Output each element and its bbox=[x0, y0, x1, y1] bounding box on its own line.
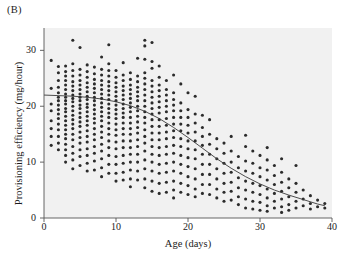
data-point bbox=[172, 189, 175, 192]
data-point bbox=[150, 125, 153, 128]
data-point bbox=[136, 80, 139, 83]
data-point bbox=[302, 189, 305, 192]
data-point bbox=[136, 132, 139, 135]
data-point bbox=[158, 182, 161, 185]
data-point bbox=[57, 128, 60, 131]
data-point bbox=[208, 183, 211, 186]
data-point bbox=[230, 181, 233, 184]
data-point bbox=[78, 99, 81, 102]
figure-panel-b: (B) Provisioning efficiency (mg/hour) Ag… bbox=[0, 0, 352, 263]
data-point bbox=[64, 133, 67, 136]
data-point bbox=[280, 157, 283, 160]
data-point bbox=[86, 154, 89, 157]
data-point bbox=[64, 115, 67, 118]
data-point bbox=[64, 110, 67, 113]
data-point bbox=[107, 62, 110, 65]
data-point bbox=[78, 92, 81, 95]
data-point bbox=[122, 121, 125, 124]
data-point bbox=[64, 99, 67, 102]
data-point bbox=[93, 159, 96, 162]
data-point bbox=[273, 206, 276, 209]
data-point bbox=[172, 129, 175, 132]
data-point bbox=[100, 101, 103, 104]
data-point bbox=[100, 88, 103, 91]
data-point bbox=[93, 91, 96, 94]
data-point bbox=[143, 128, 146, 131]
data-point bbox=[186, 165, 189, 168]
data-point bbox=[230, 135, 233, 138]
data-point bbox=[64, 128, 67, 131]
data-point bbox=[158, 106, 161, 109]
data-point bbox=[172, 116, 175, 119]
data-point bbox=[158, 111, 161, 114]
data-point bbox=[57, 148, 60, 151]
data-point bbox=[158, 95, 161, 98]
data-point bbox=[100, 136, 103, 139]
data-point bbox=[57, 91, 60, 94]
data-point bbox=[280, 181, 283, 184]
data-point bbox=[78, 104, 81, 107]
data-point bbox=[294, 164, 297, 167]
data-point bbox=[244, 145, 247, 148]
data-point bbox=[280, 205, 283, 208]
data-point bbox=[143, 135, 146, 138]
x-tick-label: 30 bbox=[247, 221, 273, 232]
data-point bbox=[64, 124, 67, 127]
data-point bbox=[208, 118, 211, 121]
data-point bbox=[172, 161, 175, 164]
data-point bbox=[179, 82, 182, 85]
data-point bbox=[143, 158, 146, 161]
data-point bbox=[78, 68, 81, 71]
data-point bbox=[114, 123, 117, 126]
data-point bbox=[273, 164, 276, 167]
data-point bbox=[258, 193, 261, 196]
data-point bbox=[129, 185, 132, 188]
data-point bbox=[107, 172, 110, 175]
data-point bbox=[266, 204, 269, 207]
data-point bbox=[129, 78, 132, 81]
data-point bbox=[201, 135, 204, 138]
data-point bbox=[136, 161, 139, 164]
data-point bbox=[150, 118, 153, 121]
data-point bbox=[287, 177, 290, 180]
data-point bbox=[50, 102, 53, 105]
data-point bbox=[165, 171, 168, 174]
data-point bbox=[114, 90, 117, 93]
data-point bbox=[50, 135, 53, 138]
data-point bbox=[165, 181, 168, 184]
data-point bbox=[143, 177, 146, 180]
data-point bbox=[93, 152, 96, 155]
data-point bbox=[64, 92, 67, 95]
data-point bbox=[158, 83, 161, 86]
data-point bbox=[222, 142, 225, 145]
data-point bbox=[186, 132, 189, 135]
data-point bbox=[165, 145, 168, 148]
data-point bbox=[179, 191, 182, 194]
data-point bbox=[50, 127, 53, 130]
data-point bbox=[57, 117, 60, 120]
data-point bbox=[222, 152, 225, 155]
data-point bbox=[107, 116, 110, 119]
data-point bbox=[172, 104, 175, 107]
data-point bbox=[71, 100, 74, 103]
data-point bbox=[122, 111, 125, 114]
data-point bbox=[107, 133, 110, 136]
data-point bbox=[93, 133, 96, 136]
data-point bbox=[71, 89, 74, 92]
data-point bbox=[93, 127, 96, 130]
data-point bbox=[172, 91, 175, 94]
x-tick-label: 40 bbox=[319, 221, 345, 232]
data-point bbox=[86, 135, 89, 138]
data-point bbox=[136, 75, 139, 78]
data-point bbox=[114, 86, 117, 89]
data-point bbox=[280, 211, 283, 214]
data-point bbox=[230, 199, 233, 202]
data-point bbox=[100, 143, 103, 146]
data-point bbox=[93, 99, 96, 102]
data-point bbox=[78, 83, 81, 86]
data-point bbox=[150, 79, 153, 82]
data-point bbox=[244, 134, 247, 137]
data-point bbox=[172, 144, 175, 147]
data-point bbox=[93, 145, 96, 148]
data-point bbox=[93, 117, 96, 120]
